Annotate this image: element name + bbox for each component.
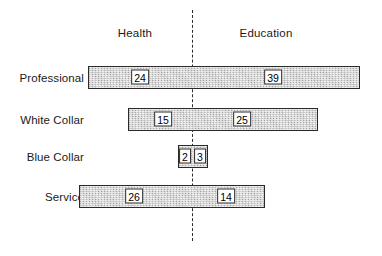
value-label-service-education: 14 [217, 189, 235, 204]
category-label-blue-collar: Blue Collar [0, 151, 84, 163]
value-label-blue-collar-health: 2 [179, 149, 191, 164]
diverging-bar-chart: Health Education Professional White Coll… [0, 0, 382, 256]
column-header-health: Health [118, 27, 152, 39]
value-label-professional-health: 24 [131, 70, 149, 85]
bar-professional [88, 66, 360, 89]
bar-service [79, 185, 265, 208]
category-label-professional: Professional [0, 72, 84, 84]
value-label-service-health: 26 [125, 189, 143, 204]
category-label-white-collar: White Collar [0, 114, 84, 126]
value-label-blue-collar-education: 3 [194, 149, 206, 164]
column-header-education: Education [240, 27, 293, 39]
value-label-white-collar-health: 15 [154, 112, 172, 127]
value-label-white-collar-education: 25 [233, 112, 251, 127]
value-label-professional-education: 39 [264, 70, 282, 85]
category-label-service: Service [0, 191, 84, 203]
